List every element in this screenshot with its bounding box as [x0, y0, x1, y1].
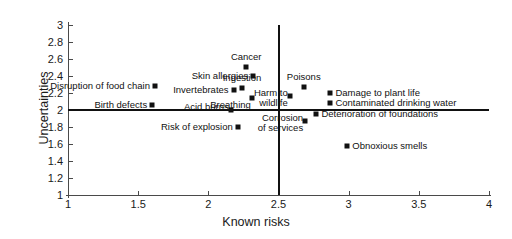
scatter-chart: Uncertainties 11.21.41.61.822.22.42.62.8… [0, 0, 512, 239]
data-point-label: Birth defects [94, 100, 147, 111]
data-point-marker [235, 125, 240, 130]
y-tick [68, 178, 73, 179]
data-point-label: Acid burns [183, 102, 229, 112]
data-point-marker [153, 84, 158, 89]
data-point-marker [314, 112, 319, 117]
y-tick-label: 2.8 [48, 37, 63, 48]
y-tick [68, 59, 73, 60]
vertical-reference-line [278, 25, 280, 195]
y-tick-label: 1.4 [48, 156, 63, 167]
data-point-label: Disruption of food chain [50, 81, 150, 92]
x-tick-label: 2 [205, 199, 211, 210]
data-point-marker [303, 119, 308, 124]
data-point-label: Harm to wildlife [242, 88, 288, 108]
y-tick-label: 2.6 [48, 54, 63, 65]
data-point-label: Poisons [287, 72, 321, 83]
data-point-label: Corrosion of services [257, 113, 303, 133]
data-point-label: Cancer [231, 51, 262, 62]
y-tick [68, 144, 73, 145]
data-point-marker [328, 101, 333, 106]
y-tick-label: 1.2 [48, 173, 63, 184]
data-point-marker [231, 88, 236, 93]
x-axis-title: Known risks [0, 215, 512, 229]
x-tick-label: 1 [65, 199, 71, 210]
data-point-label: Obnoxious smells [352, 140, 427, 151]
y-tick-label: 1 [57, 190, 63, 201]
data-point-label: Deterioration of foundations [321, 109, 438, 120]
x-tick [489, 191, 490, 196]
data-point-marker [228, 108, 233, 113]
data-point-label: Ingestion [223, 72, 262, 83]
y-tick [68, 127, 73, 128]
data-point-label: Risk of explosion [161, 122, 233, 133]
y-tick [68, 76, 73, 77]
x-tick [138, 191, 139, 196]
x-tick [68, 191, 69, 196]
x-tick-label: 3 [346, 199, 352, 210]
data-point-marker [328, 91, 333, 96]
data-point-marker [345, 143, 350, 148]
y-tick-label: 1.8 [48, 122, 63, 133]
data-point-label: Invertebrates [173, 85, 228, 96]
y-tick [68, 93, 73, 94]
data-point-marker [301, 85, 306, 90]
y-tick-label: 1.6 [48, 139, 63, 150]
data-point-marker [150, 102, 155, 107]
y-tick-label: 2 [57, 105, 63, 116]
data-point-label: Contaminated drinking water [335, 98, 456, 109]
y-tick [68, 25, 73, 26]
x-tick-label: 2.5 [271, 199, 286, 210]
y-tick [68, 42, 73, 43]
x-tick-label: 4 [486, 199, 492, 210]
y-tick [68, 161, 73, 162]
y-tick-label: 3 [57, 20, 63, 31]
x-tick [208, 191, 209, 196]
x-tick [349, 191, 350, 196]
x-tick [419, 191, 420, 196]
data-point-marker [244, 64, 249, 69]
x-tick-label: 1.5 [131, 199, 146, 210]
x-tick-label: 3.5 [411, 199, 426, 210]
